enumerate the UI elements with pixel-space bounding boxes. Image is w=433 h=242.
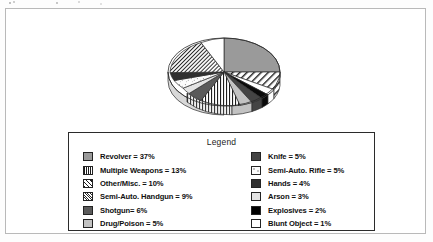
legend-item-semi-auto-handgun[interactable]: Semi-Auto. Handgun = 9% — [83, 190, 251, 203]
figure-outer-frame: Legend Revolver = 37% Multiple Weapons =… — [5, 8, 426, 234]
legend-label-drug-poison: Drug/Poison = 5% — [100, 219, 163, 228]
legend-item-explosives[interactable]: Explosives = 2% — [251, 204, 371, 217]
legend-label-multiple-weapons: Multiple Weapons = 13% — [100, 166, 186, 175]
legend-swatch-shotgun — [83, 206, 93, 215]
legend-box: Legend Revolver = 37% Multiple Weapons =… — [68, 132, 375, 231]
legend-item-multiple-weapons[interactable]: Multiple Weapons = 13% — [83, 163, 251, 176]
legend-item-shotgun[interactable]: Shotgun= 6% — [83, 204, 251, 217]
pie-chart — [154, 23, 294, 131]
legend-swatch-semi-auto-handgun — [83, 192, 93, 201]
legend-label-hands: Hands = 4% — [268, 179, 310, 188]
legend-columns: Revolver = 37% Multiple Weapons = 13% Ot… — [69, 150, 374, 230]
legend-swatch-semi-auto-rifle — [251, 166, 261, 175]
scan-noise-artifact — [0, 0, 433, 7]
figure-page: Legend Revolver = 37% Multiple Weapons =… — [0, 0, 433, 242]
legend-label-arson: Arson = 3% — [268, 192, 309, 201]
legend-label-blunt-object: Blunt Object = 1% — [268, 219, 331, 228]
legend-swatch-explosives — [251, 206, 261, 215]
legend-label-other-misc: Other/Misc. = 10% — [100, 179, 164, 188]
legend-title: Legend — [69, 137, 374, 147]
legend-swatch-knife — [251, 152, 261, 161]
legend-swatch-revolver — [83, 152, 93, 161]
pie-chart-svg — [154, 23, 294, 131]
legend-item-drug-poison[interactable]: Drug/Poison = 5% — [83, 217, 251, 230]
legend-item-revolver[interactable]: Revolver = 37% — [83, 150, 251, 163]
legend-column-left: Revolver = 37% Multiple Weapons = 13% Ot… — [83, 150, 251, 230]
legend-swatch-other-misc — [83, 179, 93, 188]
legend-swatch-drug-poison — [83, 219, 93, 228]
legend-item-arson[interactable]: Arson = 3% — [251, 190, 371, 203]
legend-swatch-multiple-weapons — [83, 166, 93, 175]
pie-slice-revolver — [224, 38, 280, 72]
legend-column-right: Knife = 5% Semi-Auto. Rifle = 5% Hands =… — [251, 150, 371, 230]
legend-label-knife: Knife = 5% — [268, 152, 306, 161]
legend-swatch-arson — [251, 192, 261, 201]
legend-label-revolver: Revolver = 37% — [100, 152, 155, 161]
legend-item-semi-auto-rifle[interactable]: Semi-Auto. Rifle = 5% — [251, 163, 371, 176]
legend-swatch-blunt-object — [251, 219, 261, 228]
legend-label-explosives: Explosives = 2% — [268, 206, 326, 215]
legend-item-knife[interactable]: Knife = 5% — [251, 150, 371, 163]
legend-item-blunt-object[interactable]: Blunt Object = 1% — [251, 217, 371, 230]
legend-label-shotgun: Shotgun= 6% — [100, 206, 147, 215]
legend-swatch-hands — [251, 179, 261, 188]
legend-label-semi-auto-handgun: Semi-Auto. Handgun = 9% — [100, 192, 192, 201]
legend-item-hands[interactable]: Hands = 4% — [251, 177, 371, 190]
legend-label-semi-auto-rifle: Semi-Auto. Rifle = 5% — [268, 166, 344, 175]
legend-item-other-misc[interactable]: Other/Misc. = 10% — [83, 177, 251, 190]
